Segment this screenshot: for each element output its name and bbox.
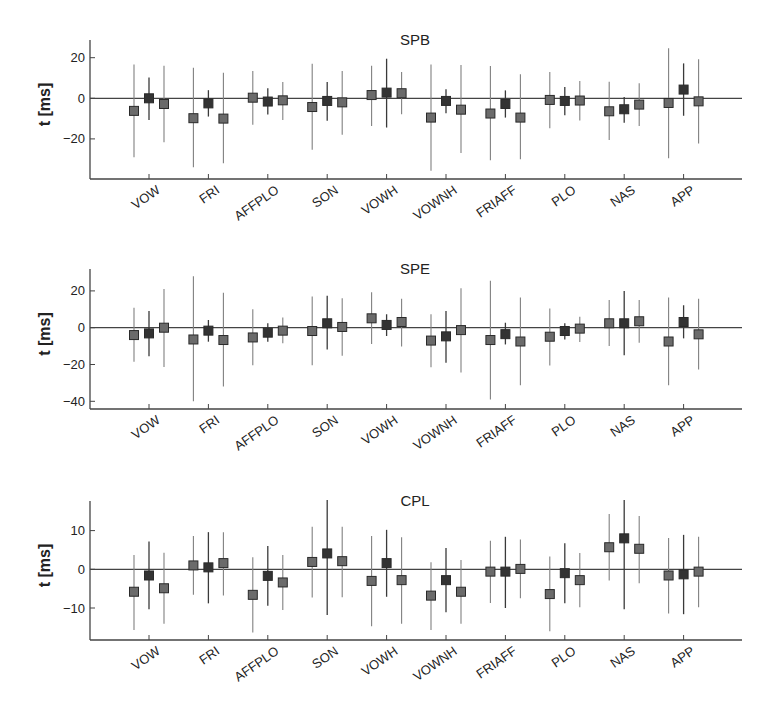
- data-point-marker: [664, 337, 673, 346]
- data-point-marker: [382, 320, 391, 329]
- data-point-marker: [367, 314, 376, 323]
- x-category-label: APP: [667, 412, 697, 439]
- y-tick-label: 0: [78, 562, 85, 577]
- x-category-label: FRIAFF: [473, 182, 519, 220]
- panel-title: CPL: [400, 492, 429, 509]
- x-category-label: VOW: [129, 412, 164, 443]
- data-point-marker: [545, 332, 554, 341]
- data-point-marker: [427, 113, 436, 122]
- data-point-marker: [486, 336, 495, 345]
- data-point-marker: [516, 337, 525, 346]
- data-point-marker: [694, 330, 703, 339]
- data-point-marker: [308, 103, 317, 112]
- data-point-marker: [457, 105, 466, 114]
- data-point-marker: [338, 98, 347, 107]
- data-point-marker: [620, 319, 629, 328]
- data-point-marker: [442, 576, 451, 585]
- y-tick-label: 0: [78, 320, 85, 335]
- data-point-marker: [457, 587, 466, 596]
- data-point-marker: [189, 335, 198, 344]
- y-tick-label: 20: [71, 283, 85, 298]
- data-point-marker: [382, 559, 391, 568]
- data-point-marker: [620, 105, 629, 114]
- x-category-label: FRIAFF: [473, 643, 519, 681]
- data-point-marker: [442, 96, 451, 105]
- data-point-marker: [160, 584, 169, 593]
- x-category-label: NAS: [607, 643, 638, 671]
- errorbar-figure: SPBt [ms]200−20VOWFRIAFFPLOSONVOWHVOWNHF…: [0, 0, 772, 726]
- x-category-label: VOWH: [359, 643, 401, 678]
- data-point-marker: [308, 327, 317, 336]
- data-point-marker: [160, 99, 169, 108]
- x-category-label: VOWNH: [410, 643, 459, 684]
- data-point-marker: [501, 99, 510, 108]
- data-point-marker: [560, 569, 569, 578]
- data-point-marker: [323, 96, 332, 105]
- data-point-marker: [575, 576, 584, 585]
- data-point-marker: [397, 317, 406, 326]
- data-point-marker: [278, 326, 287, 335]
- data-point-marker: [501, 567, 510, 576]
- data-point-marker: [278, 96, 287, 105]
- data-point-marker: [219, 114, 228, 123]
- data-point-marker: [145, 94, 154, 103]
- x-category-label: NAS: [607, 412, 638, 440]
- x-category-label: VOWH: [359, 182, 401, 217]
- x-category-label: VOW: [129, 643, 164, 674]
- data-point-marker: [160, 323, 169, 332]
- data-point-marker: [545, 590, 554, 599]
- panel-title: SPB: [400, 31, 430, 48]
- x-category-label: SON: [309, 182, 341, 210]
- x-category-label: VOWH: [359, 412, 401, 447]
- data-point-marker: [130, 331, 139, 340]
- data-point-marker: [427, 336, 436, 345]
- data-point-marker: [620, 534, 629, 543]
- y-tick-label: −20: [63, 357, 85, 372]
- data-point-marker: [248, 590, 257, 599]
- y-axis-label: t [ms]: [36, 544, 53, 588]
- data-point-marker: [263, 328, 272, 337]
- data-point-marker: [635, 317, 644, 326]
- x-category-label: PLO: [549, 412, 579, 439]
- x-category-label: PLO: [549, 643, 579, 670]
- data-point-marker: [323, 549, 332, 558]
- x-category-label: AFFPLO: [231, 643, 281, 684]
- data-point-marker: [605, 543, 614, 552]
- data-point-marker: [516, 113, 525, 122]
- x-category-label: SON: [309, 412, 341, 440]
- data-point-marker: [679, 570, 688, 579]
- data-point-marker: [263, 97, 272, 106]
- data-point-marker: [367, 91, 376, 100]
- data-point-marker: [560, 96, 569, 105]
- data-point-marker: [130, 587, 139, 596]
- data-point-marker: [189, 114, 198, 123]
- y-tick-label: 10: [71, 523, 85, 538]
- x-category-label: SON: [309, 643, 341, 671]
- data-point-marker: [397, 576, 406, 585]
- y-tick-label: −40: [63, 394, 85, 409]
- data-point-marker: [367, 576, 376, 585]
- x-category-label: AFFPLO: [231, 182, 281, 223]
- figure: SPBt [ms]200−20VOWFRIAFFPLOSONVOWHVOWNHF…: [0, 0, 772, 726]
- data-point-marker: [501, 330, 510, 339]
- data-point-marker: [219, 336, 228, 345]
- data-point-marker: [575, 96, 584, 105]
- x-category-label: APP: [667, 182, 697, 209]
- data-point-marker: [382, 88, 391, 97]
- x-category-label: FRIAFF: [473, 412, 519, 450]
- x-category-label: FRI: [196, 643, 222, 667]
- data-point-marker: [278, 578, 287, 587]
- data-point-marker: [545, 95, 554, 104]
- panel-cpl: CPLt [ms]100−10VOWFRIAFFPLOSONVOWHVOWNHF…: [36, 492, 742, 684]
- data-point-marker: [635, 544, 644, 553]
- x-category-label: VOWNH: [410, 412, 459, 453]
- x-category-label: PLO: [549, 182, 579, 209]
- x-category-label: FRI: [196, 412, 222, 436]
- data-point-marker: [679, 317, 688, 326]
- data-point-marker: [248, 333, 257, 342]
- panel-title: SPE: [400, 260, 430, 277]
- data-point-marker: [204, 326, 213, 335]
- data-point-marker: [664, 571, 673, 580]
- data-point-marker: [442, 332, 451, 341]
- data-point-marker: [338, 322, 347, 331]
